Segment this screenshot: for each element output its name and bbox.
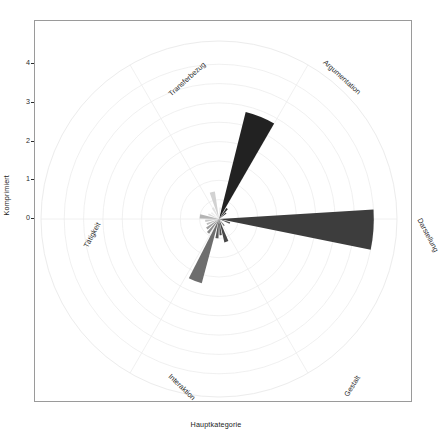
grid-spoke [130, 219, 219, 373]
polar-wedge [219, 112, 274, 219]
y-axis-tick-label: 1 [14, 174, 30, 183]
grid-spoke [219, 219, 308, 373]
y-axis-tick-label: 0 [14, 213, 30, 222]
category-label: Darstellung [415, 217, 440, 254]
y-axis-tick-label: 4 [14, 58, 30, 67]
x-axis-title: Hauptkategorie [0, 420, 432, 429]
y-axis-title: Komprimiert [2, 175, 11, 215]
plot-area: TransferbezugArgumentationDarstellungGes… [34, 20, 412, 402]
polar-wedge [189, 219, 219, 283]
polar-plot-svg [35, 21, 411, 401]
polar-wedge [219, 210, 374, 250]
y-axis-tick-label: 2 [14, 136, 30, 145]
y-axis-tick-label: 3 [14, 97, 30, 106]
